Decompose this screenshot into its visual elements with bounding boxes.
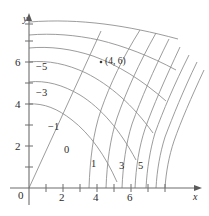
marked-point-label: (4, 6): [105, 57, 126, 67]
contour-label-0: 0: [64, 145, 69, 156]
x-axis-label: x: [193, 192, 197, 202]
contour-label-3: 3: [119, 161, 124, 172]
contour-label-minus-1: −1: [48, 122, 59, 133]
y-tick-label-4: 4: [15, 99, 21, 110]
contour-curve-level--5: [29, 34, 176, 70]
contour-label-minus-5: −5: [36, 62, 47, 73]
contour-curve-level--1: [29, 104, 117, 182]
contour-label-5: 5: [138, 161, 143, 172]
origin-label: 0: [18, 190, 24, 201]
y-axis-label: y: [23, 14, 27, 24]
contour-label-1: 1: [91, 159, 96, 170]
contour-curves-positive: [89, 30, 204, 188]
contour-curve-level-3: [122, 39, 169, 188]
y-tick-label-2: 2: [15, 141, 21, 152]
contour-curve-level-7: [165, 70, 204, 188]
x-tick-label-6: 6: [127, 192, 133, 203]
marked-point-dot: [100, 61, 103, 64]
plot-canvas: [0, 0, 209, 216]
x-tick-label-2: 2: [59, 192, 65, 203]
x-tick-label-4: 4: [93, 192, 99, 203]
contour-curve-level-1: [89, 30, 140, 188]
contour-label-minus-3: −3: [36, 88, 47, 99]
y-tick-label-6: 6: [15, 57, 21, 68]
contour-curve-level--6: [29, 21, 178, 39]
contour-plot-figure: y x 0 2 4 6 2 4 6 −5 −3 −1 0 1 3 5 (4, 6…: [0, 0, 209, 216]
